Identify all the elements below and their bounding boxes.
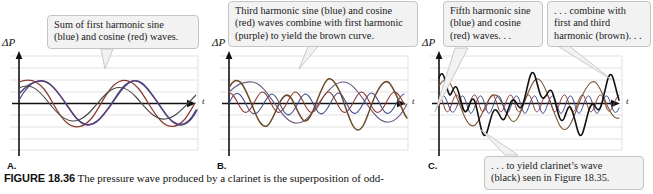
callout-b-line-1: Third harmonic sine (blue) and cosine bbox=[235, 5, 412, 17]
callout-c2-line-1: . . . combine with bbox=[554, 5, 645, 17]
panel-a-label: A. bbox=[7, 160, 17, 171]
figure-number: FIGURE 18.36 bbox=[4, 172, 75, 184]
panel-a-y-axis-label: ΔP bbox=[2, 36, 15, 48]
figure-18-36: ΔP t A. bbox=[0, 0, 653, 194]
callout-c3-line-1: . . . to yield clarinet’s wave bbox=[491, 160, 638, 172]
callout-clarinet-wave: . . . to yield clarinet’s wave (black) s… bbox=[484, 156, 644, 190]
panel-b-y-axis-label: ΔP bbox=[212, 36, 225, 48]
callout-c1-line-2: (blue) and cosine bbox=[450, 17, 537, 29]
callout-c2-line-2: first and third bbox=[554, 17, 645, 29]
callout-a-line-1: Sum of first harmonic sine bbox=[54, 19, 193, 31]
callout-sum-first-harmonic: Sum of first harmonic sine (blue) and co… bbox=[47, 15, 199, 49]
axes-a bbox=[12, 51, 196, 156]
callout-b-line-3: (purple) to yield the brown curve. bbox=[235, 30, 412, 42]
callout-fifth-harmonic: Fifth harmonic sine (blue) and cosine (r… bbox=[443, 1, 543, 47]
panel-b-plot bbox=[216, 48, 414, 158]
callout-b-line-2: (red) waves combine with first harmonic bbox=[235, 17, 412, 29]
curve-first-harmonic-purple-b bbox=[229, 82, 407, 123]
panel-b-x-axis-label: t bbox=[412, 96, 415, 106]
axes-b bbox=[222, 51, 406, 156]
callout-c3-line-2: (black) seen in Figure 18.35. bbox=[491, 172, 638, 184]
panel-c-x-axis-label: t bbox=[626, 96, 629, 106]
panel-b: ΔP t bbox=[216, 48, 414, 158]
panel-c-plot bbox=[426, 48, 631, 158]
callout-a-line-2: (blue) and cosine (red) waves. bbox=[54, 31, 193, 43]
callout-third-harmonic: Third harmonic sine (blue) and cosine (r… bbox=[228, 1, 418, 47]
callout-c2-line-3: harmonic (brown). . . bbox=[554, 30, 645, 42]
panel-b-label: B. bbox=[217, 160, 227, 171]
callout-c1-line-1: Fifth harmonic sine bbox=[450, 5, 537, 17]
panel-c: ΔP t bbox=[426, 48, 631, 158]
panel-a-plot bbox=[6, 48, 204, 158]
panel-a: ΔP t bbox=[6, 48, 204, 158]
callout-combine-first-third: . . . combine with first and third harmo… bbox=[547, 1, 651, 47]
panel-c-y-axis-label: ΔP bbox=[422, 36, 435, 48]
figure-caption-text: The pressure wave produced by a clarinet… bbox=[78, 172, 384, 184]
panel-a-x-axis-label: t bbox=[202, 96, 205, 106]
panel-c-label: C. bbox=[428, 160, 438, 171]
callout-c1-line-3: (red) waves. . . bbox=[450, 30, 537, 42]
